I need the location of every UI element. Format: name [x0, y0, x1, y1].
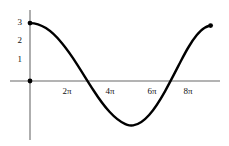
x-tick-label-2pi: 2π [55, 87, 79, 96]
curve-endpoint-left-marker [28, 21, 33, 26]
curve-endpoint-right-marker [208, 23, 213, 28]
x-tick-label-4pi: 4π [98, 87, 122, 96]
graph-figure: 3 2 1 2π 4π 6π 8π [0, 0, 229, 146]
y-tick-label-1: 1 [8, 55, 22, 64]
origin-marker [28, 79, 33, 84]
y-tick-label-3: 3 [8, 18, 22, 27]
plot-canvas [0, 0, 229, 146]
x-tick-label-6pi: 6π [140, 87, 164, 96]
y-tick-label-2: 2 [8, 36, 22, 45]
x-tick-label-8pi: 8π [176, 87, 200, 96]
cosine-curve [30, 23, 211, 125]
